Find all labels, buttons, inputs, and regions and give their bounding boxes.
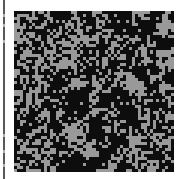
axis-tick-4 <box>3 150 5 153</box>
axis-tick-3 <box>3 134 5 137</box>
axis-tick-1 <box>3 24 5 27</box>
axis-tick-2 <box>3 40 5 43</box>
axis-tick-5 <box>3 164 5 167</box>
axis-tick-0 <box>3 14 5 17</box>
raster-canvas <box>14 11 174 172</box>
raster-heatmap-plot[interactable] <box>14 11 174 172</box>
figure-root <box>0 0 181 179</box>
axis-spine-left <box>3 0 5 179</box>
